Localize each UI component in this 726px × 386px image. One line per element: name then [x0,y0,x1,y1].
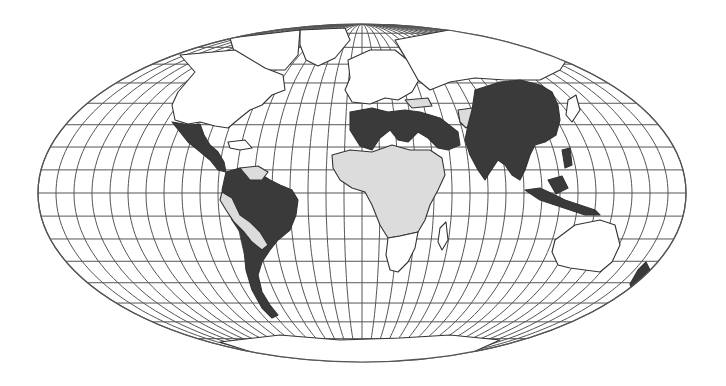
world-map [0,0,726,386]
region-antarctica [220,335,500,364]
map-canvas [0,0,726,386]
